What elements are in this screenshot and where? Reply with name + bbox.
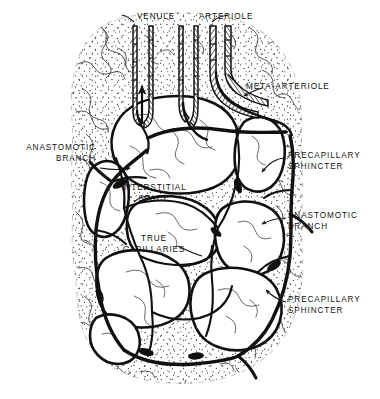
label-interstitial-space: INTERSTITIAL SPACE [118, 183, 190, 204]
label-arteriole: ARTERIOLE [199, 12, 253, 23]
microcirculation-diagram [0, 0, 380, 399]
label-meta-arteriole: META-ARTERIOLE [246, 82, 330, 93]
label-venule: VENULE [137, 12, 175, 23]
label-precapillary-sphincter-upper: PRECAPILLARY SPHINCTER [288, 151, 361, 172]
label-true-capillaries: TRUE CAPILLARIES [122, 234, 186, 255]
label-anastomotic-branch-right: ANASTOMOTIC BRANCH [288, 211, 358, 232]
label-precapillary-sphincter-lower: PRECAPILLARY SPHINCTER [288, 295, 361, 316]
figure-canvas: VENULE ARTERIOLE META-ARTERIOLE ANASTOMO… [0, 0, 380, 399]
label-anastomotic-branch-left: ANASTOMOTIC BRANCH [4, 143, 96, 164]
intra-loop-tissue-fill [60, 5, 320, 395]
